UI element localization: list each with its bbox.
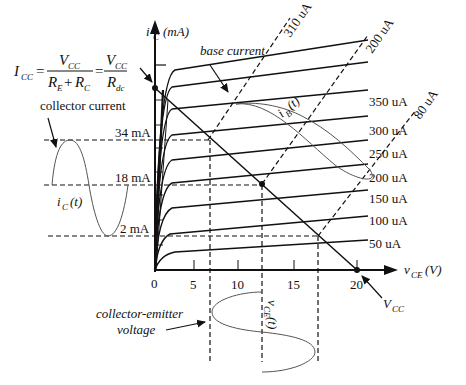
base-current-label: base current [200,43,265,58]
vcc-label: V CC [383,296,405,314]
svg-text:i: i [146,24,150,39]
svg-text:200 uA: 200 uA [369,170,408,185]
svg-text:80 uA: 80 uA [410,86,441,121]
svg-text:20: 20 [350,277,363,292]
svg-text:10: 10 [231,277,244,292]
svg-text:15: 15 [287,277,300,292]
svg-text:I: I [13,63,20,79]
svg-text:CE: CE [411,270,423,280]
y-axis-label: i C (mA) [146,24,189,42]
svg-text:E: E [56,83,63,93]
svg-text:R: R [106,74,116,90]
svg-text:CC: CC [392,304,405,314]
svg-text:C: C [153,32,160,42]
vce-signal-label: v CE (t) [262,300,280,329]
svg-text:CC: CC [21,72,34,82]
collector-emitter-label: collector-emitter voltage [96,306,184,337]
svg-text:250 uA: 250 uA [369,146,408,161]
svg-text:voltage: voltage [117,322,155,337]
ic-signal-label: i C (t) [57,194,82,212]
svg-text:v: v [404,262,410,277]
collector-emitter-arrow [166,322,205,330]
icc-arrow [140,68,152,82]
svg-text:C: C [62,202,69,212]
svg-text:(V): (V) [425,262,442,277]
svg-text:(t): (t) [70,194,82,209]
x-axis-label: v CE (V) [404,262,442,280]
diagonal-labels: 310 uA 200 uA 80 uA [280,0,441,122]
svg-text:dc: dc [116,83,125,93]
x-axis-ticks: 0 5 10 15 20 [151,276,363,292]
svg-text:200 uA: 200 uA [362,15,397,56]
svg-text:CC: CC [68,61,81,71]
collector-current-label: collector current [40,98,126,113]
base-current-arrow [210,65,228,92]
svg-text:18 mA: 18 mA [115,170,151,185]
vcc-arrow [362,276,382,298]
x-axis [155,260,398,275]
current-level-lines [44,140,318,236]
svg-text:R: R [47,74,57,90]
svg-text:C: C [84,83,91,93]
transistor-characteristics-diagram: i C (mA) 0 5 10 15 20 v CE (V) [0,0,466,385]
svg-text:50 uA: 50 uA [369,236,402,251]
svg-text:CC: CC [115,61,128,71]
svg-text:i: i [57,194,61,209]
base-current-curve-labels: 350 uA 300 uA 250 uA 200 uA 150 uA 100 u… [369,94,408,251]
svg-text:310 uA: 310 uA [280,0,315,40]
svg-text:+: + [64,74,72,90]
svg-text:(t): (t) [265,317,280,329]
y-axis [150,20,166,272]
svg-text:(mA): (mA) [163,24,189,39]
svg-text:0: 0 [151,276,158,291]
load-line [152,85,360,273]
svg-text:2 mA: 2 mA [120,221,150,236]
ic-signal-curve [52,140,128,236]
icc-equation: I CC = V CC R E + R C = V CC R dc [13,52,128,93]
collector-current-arrow [48,118,56,147]
svg-text:100 uA: 100 uA [369,213,408,228]
vce-signal-curve [212,292,315,372]
svg-text:R: R [74,74,84,90]
svg-text:34 mA: 34 mA [115,125,151,140]
svg-text:300 uA: 300 uA [369,123,408,138]
svg-text:150 uA: 150 uA [369,191,408,206]
svg-text:=: = [95,63,103,79]
svg-text:=: = [36,63,44,79]
svg-text:collector-emitter: collector-emitter [96,306,184,321]
svg-text:350 uA: 350 uA [369,94,408,109]
svg-text:5: 5 [190,277,197,292]
voltage-level-lines [210,140,318,362]
